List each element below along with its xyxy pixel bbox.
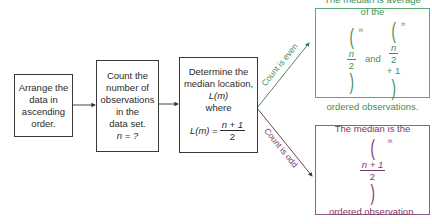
fraction: n + 1 2 <box>220 119 245 142</box>
step3-line: Determine the <box>189 66 249 78</box>
fraction-denominator: 2 <box>220 131 245 142</box>
step-median-location-box: Determine the median location, L(m) wher… <box>179 57 258 153</box>
odd-result-box: The median is the ( n + 12 ) th ordered … <box>315 125 430 215</box>
term1: ( n2 ) th <box>345 26 358 93</box>
step2-line: data set. <box>109 118 145 130</box>
odd-sup: th <box>388 135 392 147</box>
step2-line: observations <box>101 94 155 106</box>
step2-line: number of <box>106 82 149 94</box>
step3-line: L(m) <box>209 90 229 102</box>
even-formula: ( n2 ) th and ( n2 + 1 ) th <box>345 20 401 99</box>
term1-sup: th <box>359 24 363 36</box>
step-arrange-box: Arrange the data in ascending order. <box>14 74 73 137</box>
step1-line: data in <box>29 94 58 106</box>
term2-num: n <box>389 42 398 54</box>
formula-lhs: L(m) = <box>190 125 218 137</box>
step2-line: Count the <box>107 70 148 82</box>
n-variable: n = ? <box>117 130 138 142</box>
odd-term: ( n + 12 ) th <box>358 137 387 204</box>
fraction-numerator: n + 1 <box>220 119 245 131</box>
step3-line: where <box>206 102 232 114</box>
step-count-box: Count the number of observations in the … <box>96 60 159 152</box>
step1-line: Arrange the <box>19 82 69 94</box>
term2-den: 2 <box>389 54 398 65</box>
even-result-box: The median is average of the ( n2 ) th a… <box>315 8 430 98</box>
odd-formula: ( n + 12 ) th <box>358 137 387 204</box>
odd-num: n + 1 <box>360 159 385 171</box>
term2: ( n2 + 1 ) th <box>387 20 400 99</box>
odd-line: ordered observation. <box>329 206 416 218</box>
step3-line: median location, <box>184 78 253 90</box>
step1-line: ascending <box>22 106 65 118</box>
step2-line: in the <box>116 106 139 118</box>
odd-line: The median is the <box>335 123 411 135</box>
even-line: ordered observations. <box>327 101 419 113</box>
term1-num: n <box>347 48 356 60</box>
median-location-formula: L(m) = n + 1 2 <box>190 119 247 142</box>
even-line: of the <box>361 6 385 18</box>
and-text: and <box>365 53 381 65</box>
step1-line: order. <box>31 118 55 130</box>
term2-sup: th <box>401 18 405 30</box>
